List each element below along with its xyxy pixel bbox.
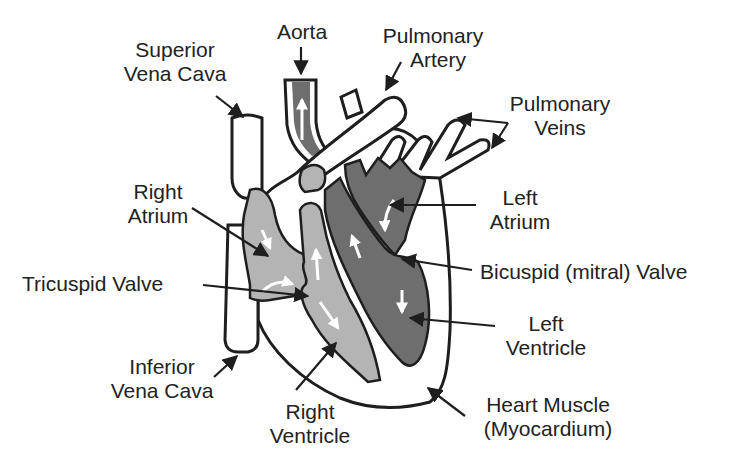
label-line: Heart Muscle (468, 393, 628, 417)
label-line: Left (486, 312, 606, 336)
label-line: Veins (500, 116, 620, 140)
label-line: Superior (100, 38, 250, 62)
label-pulmonary-artery: Pulmonary Artery (378, 24, 488, 72)
label-heart-muscle: Heart Muscle (Myocardium) (468, 393, 628, 441)
label-left-ventricle: Left Ventricle (486, 312, 606, 360)
label-line: Pulmonary (500, 92, 620, 116)
label-line: Vena Cava (92, 379, 232, 403)
label-line: Right (118, 180, 198, 204)
label-bicuspid-valve: Bicuspid (mitral) Valve (480, 260, 687, 284)
label-line: Ventricle (486, 336, 606, 360)
label-line: Vena Cava (100, 62, 250, 86)
label-inferior-vena-cava: Inferior Vena Cava (92, 355, 232, 403)
label-line: Right (255, 400, 365, 424)
label-line: (Myocardium) (468, 417, 628, 441)
label-line: Tricuspid Valve (22, 272, 163, 296)
label-line: Inferior (92, 355, 232, 379)
arrow-superior-vena-cava (216, 96, 243, 117)
label-line: Left (480, 186, 560, 210)
label-left-atrium: Left Atrium (480, 186, 560, 234)
label-line: Atrium (480, 210, 560, 234)
label-line: Artery (378, 48, 488, 72)
label-tricuspid-valve: Tricuspid Valve (22, 272, 163, 296)
superior-vena-cava-shape (232, 115, 262, 198)
label-aorta: Aorta (262, 20, 342, 44)
label-line: Ventricle (255, 424, 365, 448)
label-pulmonary-veins: Pulmonary Veins (500, 92, 620, 140)
label-line: Bicuspid (mitral) Valve (480, 260, 687, 284)
label-right-ventricle: Right Ventricle (255, 400, 365, 448)
label-line: Pulmonary (378, 24, 488, 48)
arrow-heart-muscle (428, 388, 465, 416)
label-line: Atrium (118, 204, 198, 228)
label-line: Aorta (262, 20, 342, 44)
heart-diagram: Superior Vena Cava Aorta Pulmonary Arter… (0, 0, 752, 473)
label-superior-vena-cava: Superior Vena Cava (100, 38, 250, 86)
label-right-atrium: Right Atrium (118, 180, 198, 228)
